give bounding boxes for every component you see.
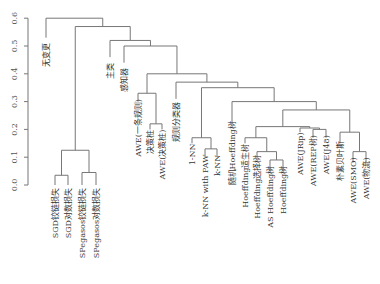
y-tick-label: 0.1 [10, 151, 19, 164]
leaf-label: 无变更 [41, 43, 51, 67]
leaf-label: AS Hoeffding树 [265, 166, 275, 229]
leaf-labels: 无变更SGD铰链损失SGD对数损失SPegasos铰链损失SPegasos对数损… [41, 43, 371, 258]
leaf-label: 主类 [105, 63, 115, 79]
leaf-label: 随机Hoeffding树 [227, 121, 237, 185]
leaf-label: AWE(决策桩) [157, 130, 167, 181]
leaf-label: Hoeffding适生树 [240, 144, 250, 208]
leaf-label: 朴素贝叶斯 [335, 141, 345, 181]
y-tick-label: 0.4 [10, 67, 19, 80]
y-tick-label: 0.3 [10, 95, 19, 108]
y-tick-label: 0.2 [10, 123, 19, 136]
leaf-label: 决策桩 [145, 130, 155, 154]
y-axis: 0.00.10.20.30.40.50.6 [10, 12, 28, 192]
leaf-label: SGD铰链损失 [50, 188, 60, 238]
y-tick-label: 0.6 [10, 12, 19, 25]
dendrogram-chart: 0.00.10.20.30.40.50.6 无变更SGD铰链损失SGD对数损失S… [0, 0, 380, 284]
leaf-label: AWE(一条规则) [133, 99, 143, 158]
leaf-label: SPegasos铰链损失 [77, 188, 87, 258]
y-tick-label: 0.5 [10, 40, 19, 53]
y-tick-label: 0.0 [10, 179, 19, 192]
leaf-label: k-NN [213, 155, 222, 176]
leaf-label: SGD对数损失 [63, 188, 73, 238]
leaf-label: AWE(物流) [361, 157, 371, 200]
leaf-label: 感知器 [119, 68, 129, 92]
leaf-label: SPegasos对数损失 [91, 188, 101, 258]
leaf-label: k-NN with PAW [201, 154, 210, 217]
leaf-label: AWE(REP树) [308, 135, 318, 187]
leaf-label: 1-NN [188, 144, 197, 166]
leaf-label: 规则分类器 [171, 102, 181, 142]
leaf-label: AWE(JRip) [296, 132, 305, 176]
leaf-label: Hoeffding树 [278, 166, 288, 214]
leaf-label: AWE(J48) [322, 135, 331, 175]
leaf-label: Hoeffding选择树 [252, 155, 262, 219]
leaf-label: AWE(SMO) [349, 157, 358, 204]
